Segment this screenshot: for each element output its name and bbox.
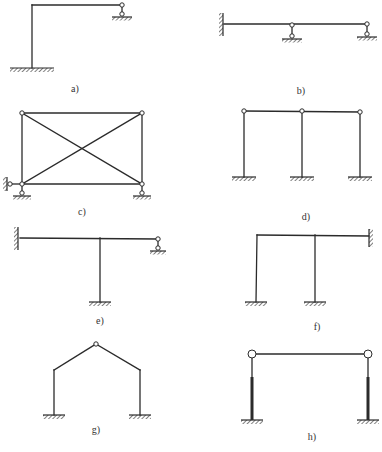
panel-h: h) — [241, 350, 379, 443]
hinge-pin-icon — [364, 350, 372, 358]
member-line — [256, 235, 257, 302]
hinge-pin-icon — [156, 237, 160, 241]
frames-diagram-svg: a)b)c)d)e)f)g)h) — [0, 0, 382, 452]
hinge-pin-icon — [156, 246, 160, 250]
hinge-pin-icon — [248, 350, 256, 358]
hinge-pin-icon — [20, 182, 24, 186]
hinge-pin-icon — [140, 191, 144, 195]
panel-label-g: g) — [92, 424, 100, 436]
hinge-pin-icon — [365, 32, 369, 36]
member-line — [20, 238, 158, 239]
panel-c: c) — [3, 111, 151, 218]
hinge-pin-icon — [140, 111, 144, 115]
member-line — [96, 344, 140, 370]
hinge-pin-icon — [300, 109, 304, 113]
hinge-pin-icon — [140, 182, 144, 186]
structural-frames-figure: a)b)c)d)e)f)g)h) — [0, 0, 382, 452]
panel-label-a: a) — [71, 83, 79, 95]
member-line — [54, 344, 96, 370]
panel-d: d) — [232, 109, 372, 223]
panel-label-e: e) — [96, 315, 104, 327]
hinge-pin-icon — [290, 23, 294, 27]
panel-label-f: f) — [314, 321, 321, 333]
panel-label-b: b) — [297, 85, 305, 97]
hinge-pin-icon — [120, 12, 124, 16]
panel-a: a) — [10, 3, 132, 95]
panel-b: b) — [219, 13, 377, 97]
hinge-pin-icon — [20, 191, 24, 195]
panel-label-h: h) — [308, 431, 316, 443]
hinge-pin-icon — [290, 34, 294, 38]
panel-g: g) — [43, 342, 151, 436]
hinge-pin-icon — [8, 182, 12, 186]
hinge-pin-icon — [120, 3, 124, 7]
hinge-pin-icon — [94, 342, 98, 346]
panel-label-d: d) — [302, 211, 310, 223]
panel-f: f) — [245, 229, 373, 333]
panel-e: e) — [14, 227, 166, 327]
hinge-pin-icon — [358, 110, 362, 114]
hinge-pin-icon — [242, 109, 246, 113]
hinge-pin-icon — [20, 111, 24, 115]
panel-label-c: c) — [78, 206, 86, 218]
member-line — [257, 235, 369, 236]
hinge-pin-icon — [365, 22, 369, 26]
